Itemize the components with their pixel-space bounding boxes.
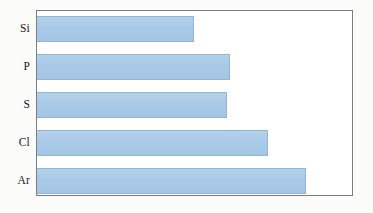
chart-row-p: P xyxy=(0,54,373,80)
bar-p xyxy=(37,54,230,80)
bar-track-cl xyxy=(37,130,268,156)
category-label-p: P xyxy=(0,61,30,73)
bar-cl xyxy=(37,130,268,156)
chart-row-s: S xyxy=(0,92,373,118)
category-label-ar: Ar xyxy=(0,175,30,187)
chart-row-si: Si xyxy=(0,16,373,42)
bar-track-ar xyxy=(37,168,306,194)
bar-si xyxy=(37,16,194,42)
bar-rows: Si P S Cl Ar xyxy=(0,10,373,196)
chart-row-ar: Ar xyxy=(0,168,373,194)
bar-track-s xyxy=(37,92,227,118)
bar-track-p xyxy=(37,54,230,80)
bar-track-si xyxy=(37,16,194,42)
bar-chart: Si P S Cl Ar xyxy=(0,0,373,213)
chart-row-cl: Cl xyxy=(0,130,373,156)
category-label-s: S xyxy=(0,99,30,111)
bar-s xyxy=(37,92,227,118)
category-label-si: Si xyxy=(0,23,30,35)
bar-ar xyxy=(37,168,306,194)
category-label-cl: Cl xyxy=(0,137,30,149)
